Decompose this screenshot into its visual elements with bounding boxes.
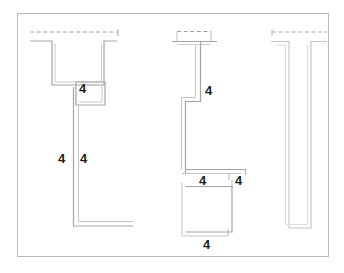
weld-size-label-mid-top: 4 [205, 84, 212, 97]
drawing-canvas: 4 4 4 4 4 4 4 [0, 0, 344, 273]
weld-size-label-left-b: 4 [80, 152, 87, 165]
weld-size-label-mid-inner: 4 [199, 174, 206, 187]
technical-drawing-svg [0, 0, 344, 273]
weld-size-label-mid-bottom: 4 [203, 238, 210, 251]
weld-size-label-left-top: 4 [79, 82, 86, 95]
weld-size-label-mid-outer: 4 [235, 174, 242, 187]
weld-size-label-left-a: 4 [58, 152, 65, 165]
drawing-border-rect [18, 14, 329, 257]
